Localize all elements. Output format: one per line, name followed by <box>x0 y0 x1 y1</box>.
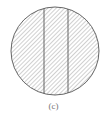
figure-caption: (c) <box>0 101 107 111</box>
hatched-circle-diagram <box>0 0 107 100</box>
